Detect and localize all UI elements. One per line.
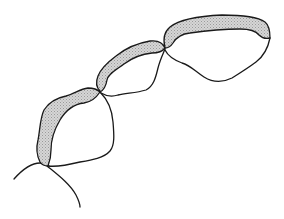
segment-chain-drawing (0, 0, 284, 219)
segment-3-shaded-band (164, 15, 270, 48)
segment-3 (164, 15, 270, 81)
segment-2-shaded-band (97, 41, 165, 92)
segment-1 (37, 88, 114, 166)
lower-tail (47, 166, 80, 207)
segment-2 (97, 41, 165, 96)
diagram-canvas (0, 0, 284, 219)
segment-3-body-outline (165, 38, 270, 81)
tails (14, 163, 80, 207)
segment-1-shaded-band (37, 88, 100, 166)
